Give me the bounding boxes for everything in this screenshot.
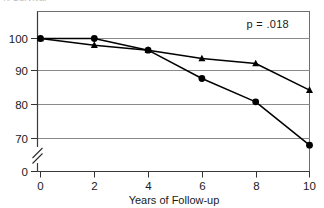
x-tick-label-2: 2	[91, 180, 97, 192]
y-tick-label-100: 100	[9, 33, 28, 45]
x-tick-marks	[41, 172, 310, 178]
plot-frame	[38, 12, 310, 172]
x-axis-title: Years of Follow-up	[129, 194, 220, 206]
pvalue-annotation: p = .018	[247, 18, 289, 30]
data-point-circle	[145, 47, 152, 54]
x-tick-label-8: 8	[253, 180, 259, 192]
y-tick-labels: 100 90 80 70 0	[9, 33, 28, 178]
y-axis-break-icon	[33, 147, 43, 164]
survival-curve-figure: % Survival	[0, 0, 324, 208]
data-point-circle	[91, 35, 98, 42]
x-tick-label-4: 4	[145, 180, 152, 192]
data-point-circle	[37, 35, 44, 42]
data-point-circle	[306, 142, 313, 149]
y-tick-label-80: 80	[15, 99, 28, 111]
x-tick-labels: 0 2 4 6 8 10	[37, 180, 316, 192]
chart-plot-area: 100 90 80 70 0 0 2 4 6 8 10 Years of Fol…	[0, 0, 324, 208]
x-tick-label-10: 10	[303, 180, 316, 192]
data-point-circle	[199, 75, 206, 82]
y-tick-label-70: 70	[15, 133, 28, 145]
y-tick-label-0: 0	[22, 166, 28, 178]
data-point-circle	[252, 98, 259, 105]
x-tick-label-6: 6	[199, 180, 205, 192]
y-tick-label-90: 90	[15, 65, 28, 77]
x-tick-label-0: 0	[37, 180, 43, 192]
